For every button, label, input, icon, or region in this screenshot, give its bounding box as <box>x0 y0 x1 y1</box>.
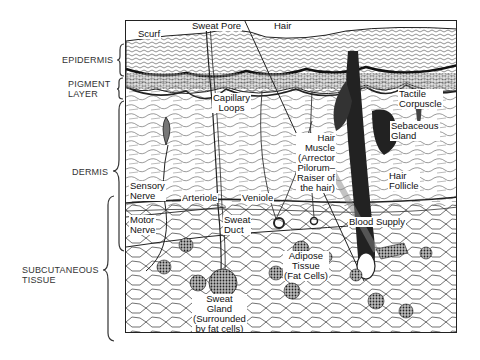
hair-text: Hair <box>274 20 291 31</box>
capillary-line2: Loops <box>213 103 250 113</box>
hair-muscle-line6: the hair) <box>297 183 335 193</box>
motor-line2: Nerve <box>130 225 155 235</box>
label-sweat-gland: Sweat Gland (Surrounded by fat cells) <box>192 294 247 333</box>
label-hair-muscle: Hair Muscle (Arrector Pilorum– Raiser of… <box>296 133 336 193</box>
layer-braces <box>0 0 130 360</box>
label-sweat-duct: Sweat Duct <box>223 215 251 235</box>
label-hair-follicle: Hair Follicle <box>388 171 420 191</box>
label-scurf: Scurf <box>137 29 161 39</box>
label-sweat-pore: Sweat Pore <box>191 21 242 31</box>
label-hair: Hair <box>273 21 292 31</box>
label-capillary-loops: Capillary Loops <box>212 93 251 113</box>
veniole-text: Veniole <box>242 192 273 203</box>
adipose-line3: (Fat Cells) <box>284 271 328 281</box>
sweat-gland-line4: by fat cells) <box>193 324 246 333</box>
skin-cross-section: Scurf Sweat Pore Hair Tactile Corpuscle … <box>125 20 457 333</box>
arteriole-text: Arteriole <box>182 192 217 203</box>
tactile-line2: Corpuscle <box>399 99 442 109</box>
label-veniole: Veniole <box>241 193 274 203</box>
label-sensory-nerve: Sensory Nerve <box>129 181 166 201</box>
label-adipose-tissue: Adipose Tissue (Fat Cells) <box>283 251 329 281</box>
label-sebaceous-gland: Sebaceous Gland <box>390 121 440 141</box>
sebaceous-line2: Gland <box>391 131 439 141</box>
label-blood-supply: Blood Supply <box>348 217 406 227</box>
scurf-text: Scurf <box>138 28 160 39</box>
blood-supply-text: Blood Supply <box>349 216 405 227</box>
sweat-pore-text: Sweat Pore <box>192 20 241 31</box>
follicle-line2: Follicle <box>389 181 419 191</box>
sensory-line2: Nerve <box>130 191 165 201</box>
label-tactile-corpuscle: Tactile Corpuscle <box>398 89 443 109</box>
label-arteriole: Arteriole <box>181 193 218 203</box>
label-motor-nerve: Motor Nerve <box>129 215 156 235</box>
sweat-duct-line2: Duct <box>224 225 250 235</box>
